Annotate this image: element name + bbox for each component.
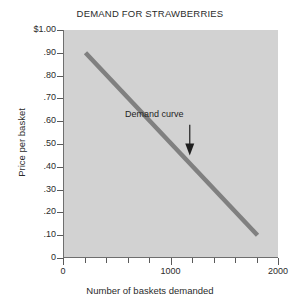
x-tick-mark [214,258,215,263]
x-tick-mark [85,258,86,263]
x-tick-mark [278,258,279,265]
x-tick-mark [171,258,172,265]
x-tick-label: 1000 [151,266,191,276]
y-tick-mark [57,190,63,191]
x-tick-mark [257,258,258,263]
x-tick-mark [63,258,64,265]
y-tick-label: .20 [10,206,56,216]
y-tick-label: .90 [10,47,56,57]
x-tick-mark [106,258,107,263]
demand-chart-figure: DEMAND FOR STRAWBERRIES Demand curve 0.1… [0,0,300,306]
y-axis-title: Price per basket [16,78,27,208]
y-tick-mark [57,53,63,54]
y-tick-label: $1.00 [10,24,56,34]
y-tick-mark [57,76,63,77]
x-axis-title: Number of baskets demanded [0,285,300,296]
y-tick-mark [57,98,63,99]
y-tick-mark [57,167,63,168]
x-tick-label: 0 [43,266,83,276]
y-axis-tick-labels: 0.10.20.30.40.50.60.70.80.90$1.00 [0,0,300,306]
y-tick-mark [57,30,63,31]
y-tick-label: 0 [10,252,56,262]
x-tick-mark [235,258,236,263]
y-tick-mark [57,235,63,236]
x-tick-label: 2000 [258,266,298,276]
y-tick-mark [57,212,63,213]
y-tick-label: .10 [10,229,56,239]
x-tick-mark [192,258,193,263]
y-tick-mark [57,144,63,145]
y-tick-mark [57,121,63,122]
x-tick-mark [128,258,129,263]
x-tick-mark [149,258,150,263]
